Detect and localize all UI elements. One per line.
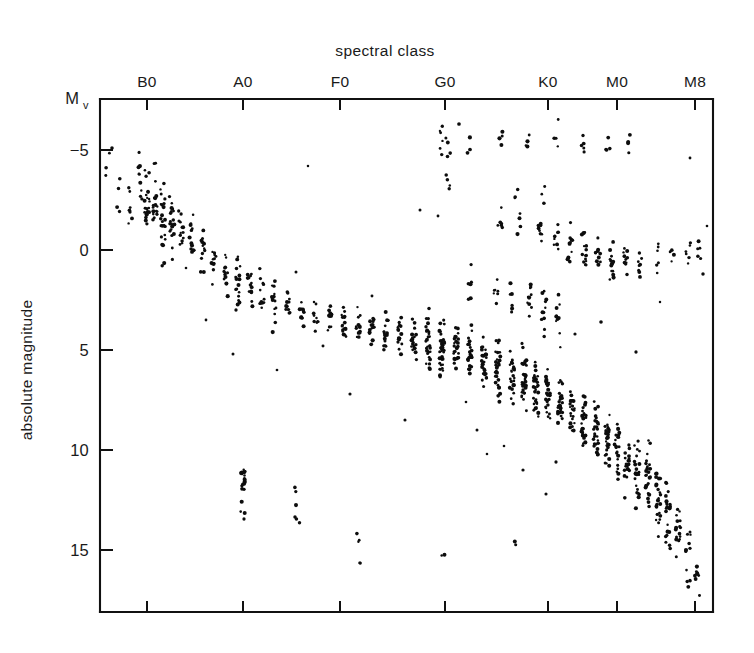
data-point [138,172,141,175]
data-point [688,547,691,550]
data-point [343,310,346,313]
data-point [469,263,472,266]
data-point [398,348,401,351]
data-point [355,325,357,327]
data-point [656,488,659,491]
data-point [624,258,627,261]
data-point [561,401,564,404]
data-point [399,332,403,336]
data-point [637,260,640,263]
data-point [468,339,472,343]
data-point [675,514,678,517]
data-point [322,345,325,348]
data-point [557,145,559,147]
data-point [383,330,385,332]
data-point [129,206,132,209]
data-point [583,231,586,234]
data-point [295,271,298,274]
data-point [154,180,157,183]
data-point [584,258,587,261]
data-point [628,459,631,462]
data-point [536,375,539,378]
data-point [226,294,230,298]
data-point [226,271,229,274]
data-point [468,282,472,286]
data-point [397,337,401,341]
data-point [202,270,206,274]
data-point [414,333,418,337]
data-point [521,468,524,471]
data-point [608,414,610,416]
data-point [513,195,517,199]
data-point [428,367,432,371]
hr-diagram-plot: spectral class absolute magnitude M v B0… [0,0,754,653]
data-point [548,413,551,416]
data-point [235,267,239,271]
data-point [163,197,166,200]
data-point [685,569,688,572]
data-point [307,165,310,168]
data-point [585,416,588,419]
data-point [657,242,660,245]
data-point [482,385,485,388]
data-point [205,319,208,322]
data-point [607,426,609,428]
data-point [372,320,375,323]
data-point [592,437,596,441]
data-point [557,293,561,297]
data-point [569,221,572,224]
data-point [449,184,452,187]
y-axis-ticks: −5051015 [70,141,113,559]
data-point [540,193,543,196]
hr-diagram-figure: spectral class absolute magnitude M v B0… [0,0,754,653]
data-point [547,415,550,418]
data-point [259,289,262,292]
data-point [410,345,413,348]
data-point [467,343,471,347]
data-point [616,467,619,470]
axis-frame [100,99,713,612]
data-point [497,341,500,344]
data-point [189,223,193,227]
data-point [637,495,641,499]
data-point [509,364,511,366]
data-point [549,417,551,419]
data-point [523,359,527,363]
data-point [571,418,574,421]
data-point [108,152,111,155]
data-point [557,231,560,234]
data-point [497,136,501,140]
data-point [425,330,428,333]
data-point [529,285,532,288]
data-point [148,200,150,202]
data-point [525,144,528,147]
data-point [511,371,513,373]
data-point [604,425,607,428]
data-point [572,409,575,412]
data-point [568,421,572,425]
data-point [646,453,649,456]
data-point [694,577,698,581]
data-point [633,463,637,467]
data-point [156,205,158,207]
x-tick-label-m8: M8 [684,73,706,90]
data-point [592,444,595,447]
data-point [357,541,359,543]
x-tick-label-m0: M0 [606,73,628,90]
data-point [160,235,163,238]
data-point [438,350,441,353]
data-point [427,307,431,311]
data-point [298,521,301,524]
data-point [465,401,468,404]
data-point [583,245,585,247]
data-point [543,185,546,188]
data-point [467,337,470,340]
data-point [595,415,598,418]
data-point [127,222,129,224]
data-point [559,346,561,348]
data-point [468,364,472,368]
data-point [699,257,702,260]
data-point [177,209,180,212]
data-point [497,400,501,404]
data-point [143,199,147,203]
